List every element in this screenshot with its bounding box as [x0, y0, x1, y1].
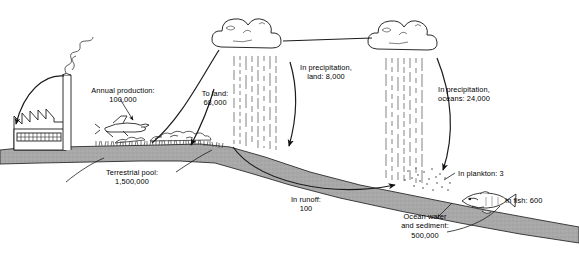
crop-duster-airplane-icon — [95, 116, 149, 137]
cloud-icon-right — [368, 21, 437, 50]
label-annual-production: Annual production: 100,000 — [68, 86, 178, 105]
label-ocean-water-sediment: Ocean water and sediment: 500,000 — [382, 212, 468, 240]
label-precipitation-land: In precipitation, land: 8,000 — [283, 63, 369, 82]
rain-streaks-icon-right — [386, 58, 422, 184]
label-to-land: To land: 68,000 — [186, 89, 244, 108]
leader-plankton — [444, 173, 455, 180]
label-plankton: In plankton: 3 — [458, 169, 538, 178]
label-precipitation-oceans: In precipitation, oceans: 24,000 — [418, 85, 510, 104]
label-terrestrial-pool: Terrestrial pool: 1,500,000 — [86, 168, 178, 187]
arc-precip-oceans — [437, 58, 450, 170]
factory-icon — [14, 74, 71, 151]
mercury-cycle-illustration — [0, 0, 579, 267]
cloud-icon-left — [212, 19, 281, 48]
diagram-canvas: Annual production: 100,000 To land: 68,0… — [0, 0, 579, 267]
label-runoff: In runoff: 100 — [278, 195, 334, 214]
cloud-connector-line — [283, 38, 372, 41]
smoke-plume-icon — [65, 37, 93, 73]
plankton-dots-icon — [404, 167, 451, 191]
label-fish: In fish: 600 — [505, 196, 577, 205]
